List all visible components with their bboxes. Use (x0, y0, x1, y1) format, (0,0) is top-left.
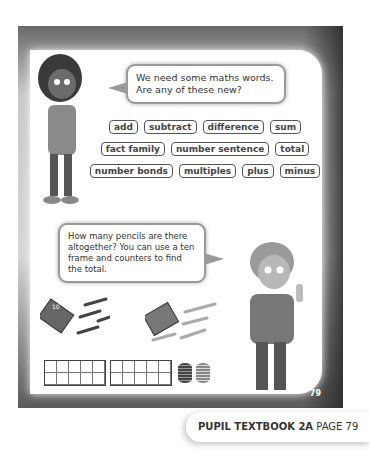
pencil-box-partial-illustration (145, 300, 220, 345)
page-reference: PAGE 79 (316, 421, 358, 432)
vocabulary-word-bank: add subtract difference sum fact family … (80, 120, 330, 186)
word-chip: multiples (179, 164, 236, 178)
speech-bubble-bottom: How many pencils are there altogether? Y… (58, 223, 206, 283)
counters-stack-dark (178, 363, 192, 383)
word-row: number bonds multiples plus minus (80, 164, 330, 178)
word-chip: number bonds (90, 164, 173, 178)
word-chip: total (275, 142, 309, 156)
ten-frame-1 (44, 360, 106, 386)
speech-bubble-top: We need some maths words. Are any of the… (126, 64, 286, 104)
word-row: fact family number sentence total (80, 142, 330, 156)
book-title: PUPIL TEXTBOOK 2A (198, 421, 313, 432)
ten-frame-2 (110, 360, 172, 386)
word-chip: sum (270, 120, 301, 134)
word-chip: add (109, 120, 138, 134)
boy-character-illustration (236, 232, 316, 397)
word-chip: subtract (144, 120, 197, 134)
word-chip: fact family (101, 142, 165, 156)
word-chip: number sentence (171, 142, 269, 156)
word-chip: minus (280, 164, 321, 178)
word-chip: difference (203, 120, 264, 134)
counters-stack-light (196, 363, 210, 383)
page-label: PUPIL TEXTBOOK 2A PAGE 79 (186, 412, 370, 442)
svg-text:10: 10 (52, 303, 60, 310)
word-row: add subtract difference sum (80, 120, 330, 134)
word-chip: plus (242, 164, 273, 178)
pencil-box-full-illustration: 10 (40, 295, 110, 340)
